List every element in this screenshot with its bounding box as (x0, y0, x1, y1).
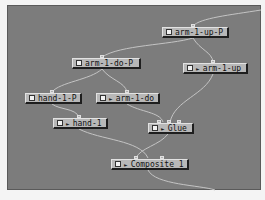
input-port[interactable] (160, 156, 164, 159)
input-port[interactable] (191, 24, 195, 27)
node-toggle-icon[interactable] (29, 95, 35, 101)
play-arrow-icon: ► (66, 120, 70, 127)
node-hand-1[interactable]: ► hand-1 (53, 118, 108, 129)
node-glue[interactable]: ► Glue (148, 123, 194, 134)
node-label: hand-1-P (38, 94, 77, 103)
node-label: arm-1-do-P (85, 59, 133, 68)
node-toggle-icon[interactable] (152, 125, 158, 131)
node-toggle-icon[interactable] (187, 65, 193, 71)
play-arrow-icon: ► (196, 65, 200, 72)
node-toggle-icon[interactable] (166, 29, 172, 35)
input-port[interactable] (77, 115, 81, 118)
input-port[interactable] (134, 156, 138, 159)
input-port[interactable] (125, 90, 129, 93)
node-label: Composite_1 (131, 160, 184, 169)
node-label: Glue (168, 124, 187, 133)
play-arrow-icon: ► (161, 125, 165, 132)
node-label: arm-1-up-P (175, 28, 223, 37)
node-toggle-icon[interactable] (115, 161, 121, 167)
play-arrow-icon: ► (109, 95, 113, 102)
node-label: arm-1-up (203, 64, 242, 73)
node-arm-1-do-P[interactable]: arm-1-do-P (72, 58, 141, 69)
input-port[interactable] (157, 120, 161, 123)
node-toggle-icon[interactable] (57, 120, 63, 126)
input-port[interactable] (100, 55, 104, 58)
play-arrow-icon: ► (124, 161, 128, 168)
node-arm-1-up-P[interactable]: arm-1-up-P (162, 27, 229, 38)
input-port[interactable] (211, 60, 215, 63)
node-label: hand-1 (73, 119, 102, 128)
node-hand-1-P[interactable]: hand-1-P (25, 93, 82, 104)
node-label: arm-1-do (116, 94, 155, 103)
node-toggle-icon[interactable] (76, 60, 82, 66)
node-composite-1[interactable]: ► Composite_1 (111, 159, 189, 170)
input-port[interactable] (167, 120, 171, 123)
node-arm-1-up[interactable]: ► arm-1-up (183, 63, 248, 74)
node-toggle-icon[interactable] (100, 95, 106, 101)
input-port[interactable] (50, 90, 54, 93)
node-arm-1-do[interactable]: ► arm-1-do (96, 93, 160, 104)
input-port[interactable] (177, 120, 181, 123)
